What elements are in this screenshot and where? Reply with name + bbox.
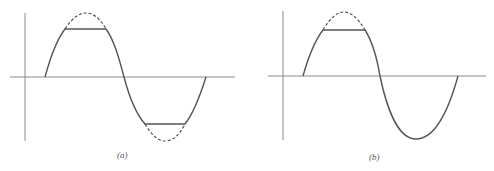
panel-b-waveform [303, 30, 458, 139]
panel-a [10, 13, 235, 141]
panel-a-clipped-positive-peak [65, 13, 106, 29]
panel-b-label: (b) [369, 152, 380, 162]
panel-b [268, 11, 486, 140]
panel-a-label: (a) [117, 150, 128, 160]
panel-a-clipped-negative-peak [145, 124, 185, 141]
clipping-diagram [0, 0, 494, 171]
panel-b-clipped-positive-peak [323, 12, 365, 30]
